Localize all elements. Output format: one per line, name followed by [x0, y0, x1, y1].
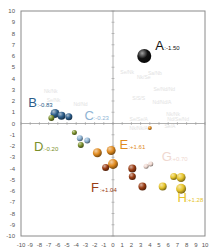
x-tick-label: 4: [148, 242, 152, 248]
group-value-g: :+0.70: [171, 156, 189, 162]
y-tick-label: -7: [10, 199, 16, 205]
faint-annotation: Se/Nd/Nd: [153, 86, 175, 92]
bubble-e: [107, 146, 116, 155]
x-tick-label: -1: [101, 242, 107, 248]
group-letter-e: E: [119, 137, 128, 152]
group-letter-h: H: [177, 190, 186, 205]
bubble-g: [148, 162, 153, 167]
bubble-h: [170, 173, 177, 180]
faint-annotation: Nd/Se/Nd: [167, 116, 189, 122]
faint-annotation: Nd/Nd/A: [153, 99, 173, 105]
bubble-f: [102, 164, 109, 171]
x-tick-label: -9: [28, 242, 34, 248]
x-tick-label: 10: [202, 242, 209, 248]
x-tick-label: 3: [139, 242, 143, 248]
x-tick-label: 1: [121, 242, 125, 248]
x-tick-label: 8: [185, 242, 189, 248]
y-tick-label: -9: [10, 222, 16, 228]
group-letter-f: F: [91, 180, 99, 195]
bubble-b: [65, 113, 72, 120]
faint-annotation: Nk/Se: [137, 74, 151, 80]
y-axis-tick-labels: 109876543210-1-2-3-4-5-6-7-8-9-10: [6, 8, 15, 239]
data-bubbles: [48, 49, 186, 194]
faint-annotation: Nd/Nd: [73, 101, 87, 107]
y-tick-label: -4: [10, 166, 16, 172]
y-tick-label: -3: [10, 154, 16, 160]
group-letter-b: B: [28, 95, 37, 110]
bubble-c: [84, 137, 90, 143]
x-tick-label: -5: [64, 242, 70, 248]
y-tick-label: 8: [12, 31, 16, 37]
y-tick-label: 7: [12, 42, 16, 48]
y-tick-label: 3: [12, 87, 16, 93]
faint-annotation: Nk/Nk/A: [130, 125, 149, 131]
bubble-f: [128, 165, 136, 173]
x-tick-label: -10: [17, 242, 26, 248]
x-tick-label: 5: [157, 242, 161, 248]
group-value-c: :-0.23: [93, 115, 109, 121]
faint-annotations: Se/NkSa/NbNk/SeSe/Nd/NdS/S/SNd/Nd/ANk/Nk…: [44, 69, 189, 131]
faint-annotation: Nk/Nk: [44, 88, 58, 94]
bubble-d: [48, 115, 54, 121]
y-tick-label: 9: [12, 19, 16, 25]
bubble-h: [159, 183, 167, 191]
y-tick-label: -8: [10, 211, 16, 217]
x-tick-label: 0: [111, 242, 115, 248]
bubble-e: [93, 148, 102, 157]
bubble-b: [57, 112, 65, 120]
bubble-c: [77, 135, 83, 141]
y-tick-label: -5: [10, 177, 16, 183]
faint-annotation: S/S/S: [132, 95, 145, 101]
bubble-e: [108, 159, 118, 169]
group-letter-c: C: [84, 108, 93, 123]
y-tick-label: 5: [12, 64, 16, 70]
x-tick-label: -8: [37, 242, 43, 248]
bubble-h: [177, 173, 186, 182]
group-value-a: :-1.50: [164, 45, 180, 51]
x-tick-label: 6: [167, 242, 171, 248]
x-tick-label: 7: [176, 242, 180, 248]
group-value-f: :+1.04: [100, 187, 118, 193]
faint-annotation: Se/Nk: [120, 69, 134, 75]
group-letter-a: A: [155, 38, 164, 53]
y-tick-label: -6: [10, 188, 16, 194]
y-tick-label: 6: [12, 53, 16, 59]
bubble-d: [72, 130, 77, 135]
x-tick-label: -4: [74, 242, 80, 248]
x-tick-label: -6: [55, 242, 61, 248]
y-tick-label: 2: [12, 98, 16, 104]
x-tick-label: -7: [46, 242, 52, 248]
y-tick-label: -10: [6, 233, 15, 239]
bubble-a: [137, 49, 151, 63]
bubble-g: [144, 164, 149, 169]
x-tick-label: 9: [194, 242, 198, 248]
x-tick-label: -2: [92, 242, 98, 248]
y-tick-label: 4: [12, 76, 16, 82]
x-tick-label: 2: [130, 242, 134, 248]
bubble-f: [138, 183, 146, 191]
y-tick-label: 1: [12, 109, 16, 115]
y-tick-label: 10: [8, 8, 15, 14]
scatter-chart: Se/NkSa/NbNk/SeSe/Nd/NdS/S/SNd/Nd/ANk/Nk…: [0, 0, 212, 252]
group-value-d: :-0.20: [43, 146, 59, 152]
bubble-d: [78, 142, 84, 148]
group-value-b: :-0.83: [37, 102, 53, 108]
bubble-f: [129, 173, 136, 180]
x-axis-tick-labels: -10-9-8-7-6-5-4-3-2-1012345678910: [17, 242, 209, 248]
faint-annotation: Se/Se/A: [130, 116, 149, 122]
x-tick-label: -3: [83, 242, 89, 248]
bubble-e: [148, 126, 152, 130]
group-value-e: :+1.61: [128, 144, 146, 150]
y-tick-label: -2: [10, 143, 16, 149]
group-letter-d: D: [34, 139, 43, 154]
y-tick-label: 0: [12, 121, 16, 127]
y-tick-label: -1: [10, 132, 16, 138]
group-value-h: :+1.28: [186, 197, 204, 203]
